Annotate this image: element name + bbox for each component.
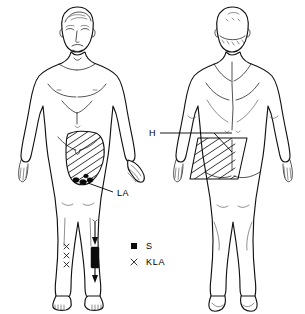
legend-square-swatch [131,243,137,249]
anatomical-figure-root: LA [0,0,305,314]
anatomy-diagram: LA [0,0,305,314]
h-label: H [149,128,156,138]
anterior-foot-left [53,296,72,310]
la-label: LA [117,188,129,198]
legend-label-s: S [146,241,153,251]
legend-label-kla: KLA [146,257,165,267]
anterior-foot-right [85,296,104,310]
posterior-head [217,7,249,52]
